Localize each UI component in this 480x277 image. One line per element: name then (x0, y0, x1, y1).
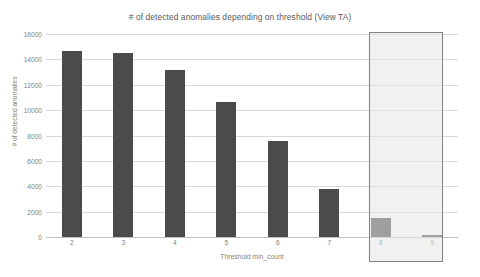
gridline (46, 161, 458, 162)
bar (216, 102, 236, 238)
x-axis-title: Threshold min_count (46, 253, 458, 260)
gridline (46, 136, 458, 137)
x-axis-tick-label: 6 (258, 239, 298, 246)
bar (319, 189, 339, 237)
x-axis-tick-label: 9 (412, 239, 452, 246)
y-axis-title: # of detected anomalies (11, 52, 18, 172)
y-axis-tick-label: 14000 (2, 56, 42, 63)
bar (422, 235, 442, 237)
gridline (46, 186, 458, 187)
bar (62, 51, 82, 237)
y-axis-tick-label: 16000 (2, 31, 42, 38)
y-axis-tick-label: 8000 (2, 132, 42, 139)
y-axis-tick-label: 10000 (2, 107, 42, 114)
x-axis-tick-label: 4 (155, 239, 195, 246)
plot-area (46, 34, 458, 237)
gridline (46, 237, 458, 238)
x-axis-tick-labels: 23456789 (46, 239, 458, 253)
y-axis-tick-label: 12000 (2, 81, 42, 88)
y-axis-tick-label: 6000 (2, 157, 42, 164)
chart-title: # of detected anomalies depending on thr… (0, 12, 480, 22)
x-axis-tick-label: 5 (206, 239, 246, 246)
gridline (46, 59, 458, 60)
y-axis-tick-labels: 0200040006000800010000120001400016000 (0, 34, 42, 237)
y-axis-tick-label: 0 (2, 234, 42, 241)
x-axis-tick-label: 8 (361, 239, 401, 246)
gridline (46, 212, 458, 213)
bar (113, 53, 133, 237)
y-axis-tick-label: 4000 (2, 183, 42, 190)
gridline (46, 34, 458, 35)
x-axis-tick-label: 3 (103, 239, 143, 246)
bar (268, 141, 288, 237)
y-axis-tick-label: 2000 (2, 208, 42, 215)
bar (371, 218, 391, 237)
gridline (46, 85, 458, 86)
gridline (46, 110, 458, 111)
x-axis-tick-label: 7 (309, 239, 349, 246)
bar-chart: # of detected anomalies depending on thr… (0, 0, 480, 277)
bar (165, 70, 185, 237)
x-axis-tick-label: 2 (52, 239, 92, 246)
